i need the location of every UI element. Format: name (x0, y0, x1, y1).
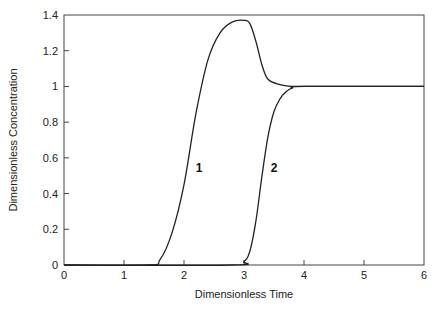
x-tick-label: 0 (61, 269, 67, 281)
x-tick-label: 1 (121, 269, 127, 281)
x-tick-label: 3 (241, 269, 247, 281)
y-axis-title: Dimensionless Concentration (7, 68, 19, 211)
y-tick-label: 0.8 (43, 116, 58, 128)
x-tick-label: 2 (181, 269, 187, 281)
chart: 012345600.20.40.60.811.21.4Dimensionless… (0, 0, 441, 310)
curve-2 (64, 86, 424, 265)
plot-frame (64, 15, 424, 265)
curve-label-2: 2 (271, 161, 278, 175)
x-tick-label: 4 (301, 269, 307, 281)
y-tick-label: 0.6 (43, 152, 58, 164)
x-tick-label: 5 (361, 269, 367, 281)
curve-label-1: 1 (196, 161, 203, 175)
y-tick-label: 1.4 (43, 9, 58, 21)
x-axis-title: Dimensionless Time (195, 288, 293, 300)
curve-1 (64, 20, 424, 265)
plot-area: 012345600.20.40.60.811.21.4Dimensionless… (7, 9, 427, 300)
x-tick-label: 6 (421, 269, 427, 281)
y-tick-label: 0.4 (43, 188, 58, 200)
y-tick-label: 1 (52, 80, 58, 92)
y-tick-label: 1.2 (43, 45, 58, 57)
y-tick-label: 0.2 (43, 223, 58, 235)
y-tick-label: 0 (52, 259, 58, 271)
